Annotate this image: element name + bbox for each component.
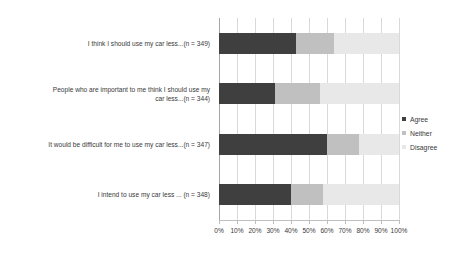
x-tick-label: 100% — [391, 226, 408, 235]
x-tick-label: 90% — [374, 226, 387, 235]
bar-row — [219, 83, 399, 104]
x-tick-label: 80% — [356, 226, 369, 235]
x-axis-ticks — [219, 220, 399, 224]
x-tick-label: 50% — [302, 226, 315, 235]
category-label-line: I think I should use my car less...(n = … — [0, 39, 210, 48]
category-label: People who are important to me think I s… — [0, 85, 210, 103]
category-label: I intend to use my car less ... (n = 348… — [0, 190, 210, 199]
x-tick — [219, 220, 220, 224]
category-label-line: People who are important to me think I s… — [0, 85, 210, 94]
category-label: I think I should use my car less...(n = … — [0, 39, 210, 48]
x-tick-label: 0% — [214, 226, 224, 235]
x-tick-label: 40% — [284, 226, 297, 235]
legend-label: Disagree — [410, 143, 437, 152]
x-tick — [327, 220, 328, 224]
x-tick-label: 70% — [338, 226, 351, 235]
legend-swatch-icon — [402, 117, 406, 121]
x-tick — [381, 220, 382, 224]
x-tick — [291, 220, 292, 224]
bar-segment-disagree — [334, 33, 399, 54]
bar-row — [219, 33, 399, 54]
legend-swatch-icon — [402, 145, 406, 149]
x-tick — [255, 220, 256, 224]
bar-segment-disagree — [323, 184, 399, 205]
category-label-line: car less...(n = 344) — [0, 94, 210, 103]
category-axis-labels: I think I should use my car less...(n = … — [0, 18, 215, 220]
bar-row — [219, 134, 399, 155]
legend-item-disagree[interactable]: Disagree — [402, 140, 437, 154]
bar-segment-neither — [291, 184, 323, 205]
gridline-100% — [399, 18, 400, 220]
legend-item-neither[interactable]: Neither — [402, 126, 437, 140]
bar-segment-agree — [219, 184, 291, 205]
bar-series-group — [219, 18, 399, 220]
plot-area — [219, 18, 399, 220]
stacked-bar-chart: I think I should use my car less...(n = … — [0, 0, 463, 253]
legend-label: Neither — [410, 129, 432, 138]
x-tick — [237, 220, 238, 224]
x-tick-label: 20% — [248, 226, 261, 235]
bar-row — [219, 184, 399, 205]
bar-segment-agree — [219, 83, 275, 104]
x-tick — [345, 220, 346, 224]
category-label-line: It would be difficult for me to use my c… — [0, 140, 210, 149]
legend-label: Agree — [410, 115, 428, 124]
legend-swatch-icon — [402, 131, 406, 135]
x-tick-label: 60% — [320, 226, 333, 235]
x-tick — [273, 220, 274, 224]
bar-segment-neither — [275, 83, 320, 104]
bar-segment-agree — [219, 134, 327, 155]
bar-segment-neither — [296, 33, 334, 54]
legend-item-agree[interactable]: Agree — [402, 112, 437, 126]
bar-segment-neither — [327, 134, 359, 155]
x-tick — [309, 220, 310, 224]
bar-segment-disagree — [359, 134, 399, 155]
x-tick — [399, 220, 400, 224]
bar-segment-disagree — [320, 83, 399, 104]
chart-legend: AgreeNeitherDisagree — [402, 112, 437, 154]
bar-segment-agree — [219, 33, 296, 54]
x-tick-label: 10% — [230, 226, 243, 235]
x-tick — [363, 220, 364, 224]
category-label-line: I intend to use my car less ... (n = 348… — [0, 190, 210, 199]
x-tick-label: 30% — [266, 226, 279, 235]
category-label: It would be difficult for me to use my c… — [0, 140, 210, 149]
x-axis-tick-labels: 0%10%20%30%40%50%60%70%80%90%100% — [219, 226, 399, 238]
